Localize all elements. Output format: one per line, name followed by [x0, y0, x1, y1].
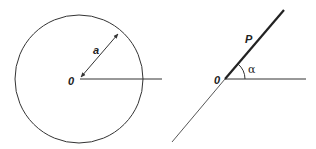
- diagram-canvas: a 0 α P 0: [0, 0, 316, 149]
- radius-arrow: [81, 34, 118, 77]
- center-label-left: 0: [68, 75, 75, 87]
- radius-label: a: [93, 44, 99, 56]
- point-label: P: [245, 33, 253, 45]
- angle-label: α: [248, 63, 256, 76]
- left-figure: a 0: [15, 15, 162, 143]
- right-figure: α P 0: [172, 10, 306, 142]
- angle-arc: [238, 64, 245, 79]
- origin-label-right: 0: [214, 74, 221, 86]
- line-extension: [172, 79, 225, 142]
